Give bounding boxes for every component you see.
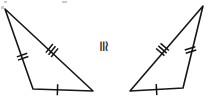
congruence-symbol: ≅ (91, 36, 117, 56)
scan-speck-left (4, 1, 7, 3)
right-triangle-bottom-side-single-tick (156, 84, 157, 95)
scan-speck-mid (62, 1, 67, 3)
tick (156, 84, 157, 95)
left-triangle-outline (5, 9, 93, 91)
right-triangle-long-side-triple-tick (156, 43, 169, 55)
tick (185, 47, 196, 50)
right-triangle-right-side-double-tick (185, 47, 197, 53)
left-triangle-left-side-double-tick (17, 53, 29, 60)
scan-speck-right (1, 6, 4, 9)
left-triangle-hypotenuse-triple-tick (46, 44, 58, 57)
geometry-figure: ≅ (0, 0, 208, 98)
right-triangle (130, 6, 203, 95)
left-triangle (5, 9, 93, 95)
